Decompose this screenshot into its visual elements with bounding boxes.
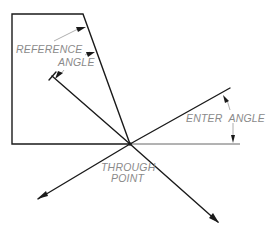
through-point-label-line2: POINT — [111, 172, 145, 184]
reference-arrowhead-top-icon — [76, 27, 86, 32]
enter-angle-label: ENTER ANGLE — [186, 112, 266, 124]
through-point-dot — [128, 142, 132, 146]
enter-arrowhead-top-icon — [223, 95, 229, 103]
lower-left-arrowhead-icon — [37, 191, 48, 199]
reference-angle-label-line1: REFERENCE — [16, 43, 83, 55]
reference-angle-label-line2: ANGLE — [57, 56, 95, 68]
boundary-shape — [12, 14, 130, 144]
angle-diagram: REFERENCE ANGLE ENTER ANGLE THROUGH POIN… — [0, 0, 276, 229]
enter-arrowhead-bottom-icon — [231, 135, 235, 143]
